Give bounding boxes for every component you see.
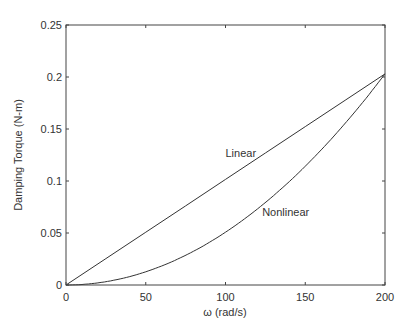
y-tick-label: 0.25 (41, 19, 62, 31)
annotation-linear: Linear (226, 147, 257, 159)
y-tick-label: 0.15 (41, 123, 62, 135)
y-tick-label: 0.05 (41, 227, 62, 239)
chart: 05010015020000.050.10.150.20.25 ω (rad/s… (0, 0, 415, 326)
annotations: LinearNonlinear (226, 147, 310, 218)
x-tick-label: 0 (63, 291, 69, 303)
series-line-linear (66, 74, 385, 285)
x-tick-label: 150 (296, 291, 314, 303)
annotation-nonlinear: Nonlinear (262, 206, 309, 218)
y-axis-label: Damping Torque (N-m) (12, 99, 24, 211)
y-tick-label: 0.2 (47, 71, 62, 83)
x-tick-label: 100 (216, 291, 234, 303)
x-axis-label: ω (rad/s) (203, 306, 246, 318)
tick-labels: 05010015020000.050.10.150.20.25 (41, 19, 395, 303)
y-tick-label: 0.1 (47, 175, 62, 187)
series-lines (66, 74, 385, 285)
y-tick-label: 0 (56, 279, 62, 291)
x-tick-label: 50 (140, 291, 152, 303)
x-tick-label: 200 (376, 291, 394, 303)
